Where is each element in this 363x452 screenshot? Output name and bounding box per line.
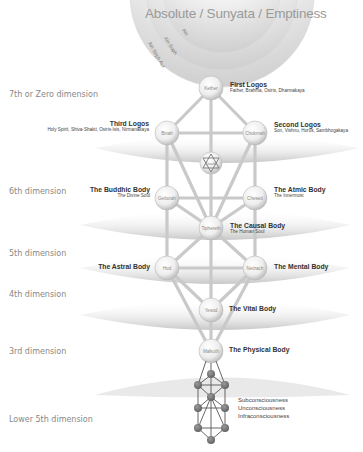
node-daath: Daath xyxy=(200,152,222,174)
label-vital-body: The Vital Body xyxy=(229,305,276,312)
node-kether: Kether xyxy=(199,76,223,100)
dimension-label-lower-5th: Lower 5th dimension xyxy=(9,415,93,424)
label-first-logos: First Logos Father, Brahma, Osiris, Dhar… xyxy=(230,81,305,93)
dimension-label-4th: 4th dimension xyxy=(9,290,66,299)
dimension-label-7th: 7th or Zero dimension xyxy=(9,90,98,99)
node-netzach: Netzach xyxy=(243,256,267,280)
node-tiphereth: Tiphereth xyxy=(199,216,223,240)
svg-text:Yesod: Yesod xyxy=(205,308,218,313)
svg-text:Tiphereth: Tiphereth xyxy=(201,226,221,231)
lower-consciousness-list: Subconsciousness Unconsciousness Infraco… xyxy=(238,396,289,420)
label-second-logos: Second Logos Son, Vishnu, Horus, Sambhog… xyxy=(274,121,348,133)
svg-text:Geburah: Geburah xyxy=(158,196,176,201)
svg-text:Hod: Hod xyxy=(163,266,172,271)
label-subconsciousness: Subconsciousness xyxy=(238,396,289,404)
node-yesod: Yesod xyxy=(199,298,223,322)
node-geburah: Geburah xyxy=(155,186,179,210)
svg-text:Kether: Kether xyxy=(204,86,218,91)
node-hod: Hod xyxy=(155,256,179,280)
svg-text:Netzach: Netzach xyxy=(247,266,264,271)
tree-of-life-diagram: Ain Ain Soph Ain Soph Aur Kether Binah xyxy=(0,0,363,452)
dimension-label-5th: 5th dimension xyxy=(9,249,66,258)
label-unconsciousness: Unconsciousness xyxy=(238,404,289,412)
svg-text:Chokmah: Chokmah xyxy=(245,131,265,136)
svg-text:Binah: Binah xyxy=(161,131,173,136)
node-malkuth: Malkuth xyxy=(199,339,223,363)
label-third-logos: Third Logos Holy Spirit, Shiva-Shakti, O… xyxy=(47,120,149,132)
node-chesed: Chesed xyxy=(243,186,267,210)
label-infraconsciousness: Infraconsciousness xyxy=(238,412,289,420)
node-chokmah: Chokmah xyxy=(243,121,267,145)
dimension-label-6th: 6th dimension xyxy=(9,187,66,196)
label-astral-body: The Astral Body xyxy=(98,263,150,270)
dimension-label-3rd: 3rd dimension xyxy=(9,347,66,356)
svg-text:Daath: Daath xyxy=(206,161,217,166)
lower-tree xyxy=(194,361,229,444)
label-atmic-body: The Atmic Body The Innermost xyxy=(274,186,325,198)
label-buddhic-body: The Buddhic Body The Divine Soul xyxy=(90,186,150,198)
svg-text:Malkuth: Malkuth xyxy=(203,349,220,354)
label-causal-body: The Causal Body The Human Soul xyxy=(230,222,285,234)
label-physical-body: The Physical Body xyxy=(229,346,289,353)
diagram-title: Absolute / Sunyata / Emptiness xyxy=(145,6,327,21)
svg-text:Chesed: Chesed xyxy=(247,196,263,201)
node-binah: Binah xyxy=(155,121,179,145)
label-mental-body: The Mental Body xyxy=(274,263,328,270)
